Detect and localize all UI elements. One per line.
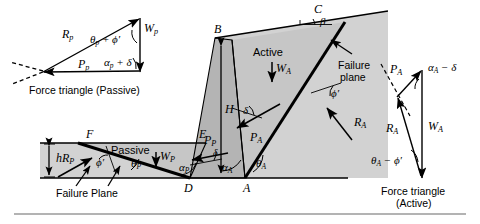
failure-plane-right-label-l1: Failure <box>338 60 370 71</box>
left-triangle-Pp-label: Pp <box>78 58 89 72</box>
left-triangle-top-angle-label: θp + ϕ′ <box>90 34 120 46</box>
theta-A-label: θA <box>256 158 266 170</box>
left-triangle-Wp-label: Wp <box>144 22 158 36</box>
right-triangle-Pa-label: PA <box>390 63 402 77</box>
RA-label: RA <box>354 116 366 130</box>
left-triangle-caption: Force triangle (Passive) <box>29 85 140 96</box>
point-label-D: D <box>184 182 193 194</box>
left-triangle-bottom-arc <box>133 58 136 69</box>
active-zone-label: Active <box>253 47 283 58</box>
left-triangle-Pp <box>44 71 139 72</box>
figure-canvas: Rp θp + ϕ′ Wp Pp αp + δ Force triangle (… <box>0 0 480 224</box>
right-triangle-caption-line1: Force triangle <box>381 186 445 197</box>
phi-P-label: ϕ′ <box>96 157 104 168</box>
left-triangle-dashed-upper <box>10 62 43 71</box>
failure-plane-right-label-l2: plane <box>340 72 366 83</box>
point-label-C: C <box>314 3 322 15</box>
WP-label: WP <box>160 150 175 164</box>
PP-label: PP <box>204 134 216 148</box>
right-triangle-caption-line2: (Active) <box>396 198 432 209</box>
WA-label: WA <box>276 62 291 76</box>
delta-A-label: δ <box>243 105 248 116</box>
point-label-F: F <box>86 128 93 140</box>
right-triangle-Wa-label: WA <box>428 120 443 134</box>
right-triangle-Ra-label: RA <box>386 122 398 136</box>
point-label-A: A <box>243 182 250 194</box>
left-triangle-bottom-angle-label: αp + δ <box>104 57 132 69</box>
PA-label: PA <box>250 131 262 145</box>
delta-P-label: δ <box>213 148 218 158</box>
H-label: H <box>225 103 234 115</box>
passive-zone-label: Passive <box>111 145 150 156</box>
left-triangle-top-arc <box>132 30 137 43</box>
phi-A-label: ϕ′ <box>331 88 339 99</box>
left-triangle-Rp-label: Rp <box>62 28 73 42</box>
alpha-A-label: αA <box>222 162 232 174</box>
right-triangle-top-angle-label: αA − δ <box>428 62 456 74</box>
right-triangle-bottom-angle-label: θA − ϕ′ <box>371 155 402 167</box>
left-triangle-dashed-lower <box>12 72 43 84</box>
beta-label: β <box>320 16 325 27</box>
theta-P-label: θP <box>131 158 141 170</box>
right-triangle-top-arc <box>415 79 419 89</box>
failure-plane-left-label: Failure Plane <box>56 188 118 199</box>
RP-label: RP <box>62 152 74 166</box>
point-label-B: B <box>214 23 221 35</box>
alpha-P-label: αP <box>179 162 189 174</box>
